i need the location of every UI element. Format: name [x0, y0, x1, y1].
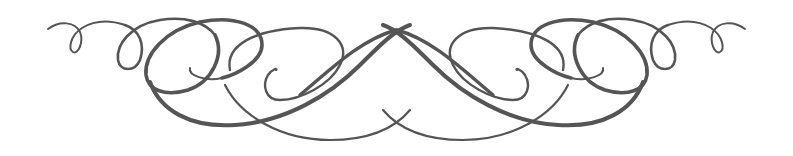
left-loop-2 [118, 19, 215, 69]
right-big-oval [531, 20, 647, 93]
flourish-ornament [0, 0, 793, 156]
left-end-curl [48, 22, 125, 53]
left-big-oval [146, 20, 262, 93]
center-crossing [300, 30, 493, 95]
left-mid-oval [229, 28, 343, 100]
right-end-curl [668, 22, 745, 53]
right-mid-oval [450, 28, 564, 100]
center-diagonal-left [300, 30, 396, 95]
left-flourish [48, 19, 410, 140]
right-loop-2 [578, 19, 675, 69]
flourish-svg [0, 0, 793, 156]
right-flourish [383, 19, 745, 140]
left-long-swash [225, 85, 410, 140]
center-diagonal-right [397, 30, 493, 95]
right-long-swash [383, 85, 568, 140]
